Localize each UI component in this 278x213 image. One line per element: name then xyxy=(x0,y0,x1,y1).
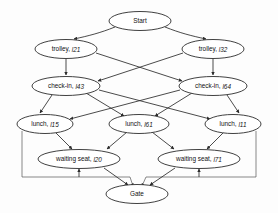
node-trolley_l32[interactable]: trolley, l32 xyxy=(182,40,244,59)
node-label: waiting seat, l20 xyxy=(55,155,102,163)
node-label-subscript: l61 xyxy=(144,120,153,127)
node-label: waiting seat, l71 xyxy=(175,155,222,163)
edge-checkin-l64-to-lunch-l15 xyxy=(70,90,180,119)
edge-lunch-l61-to-wseat-l71 xyxy=(152,132,174,149)
node-label: check-in, l43 xyxy=(48,82,84,89)
edge-checkin-l64-to-lunch-l11 xyxy=(227,95,239,113)
edge-checkin-l43-to-lunch-l15 xyxy=(40,95,52,113)
edge-checkin-l43-to-lunch-l11 xyxy=(99,90,210,119)
node-label: lunch, l15 xyxy=(31,120,59,127)
edge-wseat-l71-to-gate xyxy=(150,168,175,185)
edge-wseat-l20-to-gate xyxy=(104,168,128,185)
node-label-subscript: l43 xyxy=(75,82,84,89)
node-label: lunch, l61 xyxy=(125,120,153,127)
edge-start-to-trolley-l32 xyxy=(165,27,206,39)
edge-checkin-l43-to-lunch-l61 xyxy=(86,93,124,116)
node-wseat_l71[interactable]: waiting seat, l71 xyxy=(158,150,240,169)
flow-diagram: Starttrolley, l21trolley, l32check-in, l… xyxy=(0,0,278,213)
graph-canvas: Starttrolley, l21trolley, l32check-in, l… xyxy=(0,0,278,213)
node-label-subscript: l64 xyxy=(222,82,231,89)
node-lunch_l61[interactable]: lunch, l61 xyxy=(109,115,169,134)
node-label: trolley, l32 xyxy=(199,45,228,53)
node-label-subscript: l20 xyxy=(93,155,102,162)
node-wseat_l20[interactable]: waiting seat, l20 xyxy=(38,150,120,169)
node-checkin_l43[interactable]: check-in, l43 xyxy=(32,77,100,96)
node-trolley_l21[interactable]: trolley, l21 xyxy=(35,40,97,59)
node-label-subscript: l71 xyxy=(213,155,222,162)
node-layer: Starttrolley, l21trolley, l32check-in, l… xyxy=(17,12,261,204)
node-label-subscript: l32 xyxy=(219,45,228,52)
node-label: trolley, l21 xyxy=(52,45,81,53)
node-checkin_l64[interactable]: check-in, l64 xyxy=(179,77,247,96)
node-gate[interactable]: Gate xyxy=(106,185,168,204)
node-start[interactable]: Start xyxy=(109,12,171,31)
edge-lunch-l11-to-wseat-l71 xyxy=(207,132,224,149)
edge-lunch-l61-to-wseat-l20 xyxy=(107,132,127,149)
node-label: Gate xyxy=(130,190,144,197)
node-lunch_l15[interactable]: lunch, l15 xyxy=(17,115,73,134)
node-label: check-in, l64 xyxy=(195,82,231,89)
edge-lunch-l15-to-wseat-l20 xyxy=(55,132,72,149)
edge-start-to-trolley-l21 xyxy=(74,27,115,39)
node-label-subscript: l11 xyxy=(238,120,246,127)
node-lunch_l11[interactable]: lunch, l11 xyxy=(205,115,261,134)
node-label: Start xyxy=(133,17,147,24)
node-label-subscript: l21 xyxy=(72,45,81,52)
node-label: lunch, l11 xyxy=(220,120,247,127)
node-label-subscript: l15 xyxy=(50,120,59,127)
